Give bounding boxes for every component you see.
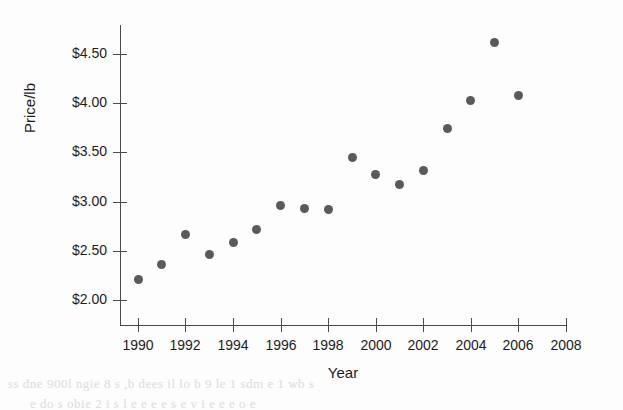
x-tick-label-2004: 2004 <box>448 337 494 353</box>
y-tick-label-2-00: $2.00 <box>72 291 107 307</box>
data-point-1995 <box>252 225 261 234</box>
y-axis-title: Price/lb <box>21 83 38 133</box>
x-tick-1994 <box>233 318 234 332</box>
data-point-1996 <box>276 201 285 210</box>
data-point-1990 <box>134 275 143 284</box>
data-point-1993 <box>205 250 214 259</box>
y-tick-2-50 <box>113 251 127 252</box>
x-tick-2008 <box>566 318 567 332</box>
data-point-2006 <box>514 91 523 100</box>
x-tick-2004 <box>471 318 472 332</box>
data-point-2002 <box>419 166 428 175</box>
x-tick-1996 <box>281 318 282 332</box>
y-tick-label-3-50: $3.50 <box>72 143 107 159</box>
x-tick-label-1996: 1996 <box>258 337 304 353</box>
x-tick-label-2002: 2002 <box>400 337 446 353</box>
x-tick-2000 <box>376 318 377 332</box>
data-point-1998 <box>324 205 333 214</box>
x-tick-label-1998: 1998 <box>305 337 351 353</box>
data-point-2001 <box>395 180 404 189</box>
data-point-1994 <box>229 238 238 247</box>
data-point-2000 <box>371 170 380 179</box>
data-point-1999 <box>348 153 357 162</box>
x-tick-label-1990: 1990 <box>115 337 161 353</box>
x-axis-title: Year <box>0 364 623 381</box>
y-tick-label-2-50: $2.50 <box>72 242 107 258</box>
data-point-1992 <box>181 230 190 239</box>
x-tick-1992 <box>185 318 186 332</box>
x-tick-label-2000: 2000 <box>353 337 399 353</box>
x-axis-line <box>120 325 566 326</box>
y-tick-4-50 <box>113 54 127 55</box>
x-tick-label-2008: 2008 <box>543 337 589 353</box>
x-tick-1998 <box>328 318 329 332</box>
x-tick-label-2006: 2006 <box>495 337 541 353</box>
data-point-2003 <box>443 124 452 133</box>
data-point-1997 <box>300 204 309 213</box>
y-tick-label-3-00: $3.00 <box>72 193 107 209</box>
x-tick-1990 <box>138 318 139 332</box>
y-tick-3-00 <box>113 202 127 203</box>
data-point-2004 <box>466 96 475 105</box>
x-tick-2006 <box>518 318 519 332</box>
x-tick-2002 <box>423 318 424 332</box>
y-tick-label-4-50: $4.50 <box>72 45 107 61</box>
scan-bleed-line-2: e do s obie 2 i s l e e e e s e v i e e … <box>30 396 256 410</box>
data-point-1991 <box>157 260 166 269</box>
x-tick-label-1994: 1994 <box>210 337 256 353</box>
y-tick-2-00 <box>113 300 127 301</box>
y-tick-3-50 <box>113 152 127 153</box>
data-point-2005 <box>490 38 499 47</box>
y-tick-label-4-00: $4.00 <box>72 94 107 110</box>
y-tick-4-00 <box>113 103 127 104</box>
scatter-chart-figure: $4.50 $4.00 $3.50 $3.00 $2.50 $2.00 1990… <box>0 0 623 410</box>
y-axis-line <box>120 25 121 326</box>
x-tick-label-1992: 1992 <box>162 337 208 353</box>
